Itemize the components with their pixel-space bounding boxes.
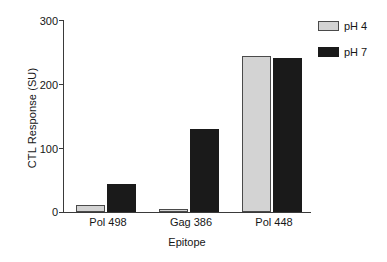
legend-item-ph4: pH 4 — [318, 20, 384, 31]
bar-pol448-ph7 — [273, 58, 302, 212]
x-axis-line — [63, 212, 311, 213]
legend-swatch-ph4-icon — [318, 21, 339, 31]
legend-label-ph4: pH 4 — [344, 20, 367, 32]
plot-area — [63, 20, 311, 212]
bar-pol498-ph7 — [107, 184, 136, 212]
legend-label-ph7: pH 7 — [344, 46, 367, 58]
bar-gag386-ph4 — [159, 209, 188, 212]
legend: pH 4 pH 7 — [318, 20, 384, 72]
x-tick-label-pol448: Pol 448 — [229, 216, 319, 228]
bar-pol448-ph4 — [242, 56, 271, 212]
x-tick-label-pol498: Pol 498 — [63, 216, 153, 228]
legend-item-ph7: pH 7 — [318, 46, 384, 57]
x-axis-title: Epitope — [63, 236, 311, 248]
legend-swatch-ph7-icon — [318, 47, 339, 57]
y-tick-label-200: 200 — [24, 80, 58, 90]
y-tick-label-300: 300 — [24, 16, 58, 26]
bar-pol498-ph4 — [76, 205, 105, 212]
y-axis-title: CTL Response (SU) — [26, 23, 38, 213]
bar-chart-figure: CTL Response (SU) 300 200 100 0 Pol 498 … — [0, 0, 387, 262]
bar-gag386-ph7 — [190, 129, 219, 212]
x-tick-label-gag386: Gag 386 — [146, 216, 236, 228]
y-tick-label-0: 0 — [24, 207, 58, 217]
y-tick-label-100: 100 — [24, 144, 58, 154]
